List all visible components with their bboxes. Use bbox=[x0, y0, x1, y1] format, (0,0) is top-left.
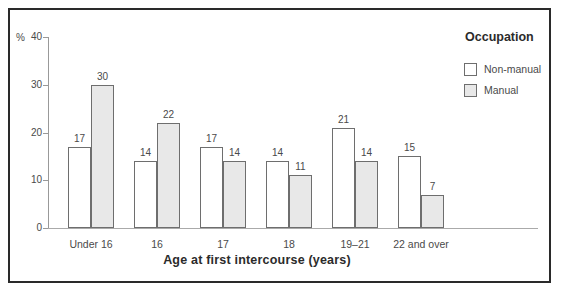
y-tick-label: 20 bbox=[14, 128, 42, 138]
legend-title: Occupation bbox=[465, 30, 534, 44]
bar-value-label: 30 bbox=[86, 71, 120, 82]
bar-non-manual bbox=[398, 156, 421, 228]
y-tick-mark bbox=[43, 228, 48, 229]
bar-value-label: 17 bbox=[195, 133, 229, 144]
bar-value-label: 22 bbox=[152, 109, 186, 120]
bar-value-label: 14 bbox=[218, 147, 252, 158]
bar-non-manual bbox=[134, 161, 157, 228]
y-tick-label: 30 bbox=[14, 80, 42, 90]
bar-manual bbox=[157, 123, 180, 228]
bar-value-label: 21 bbox=[327, 114, 361, 125]
bar-manual bbox=[289, 175, 312, 228]
bar-non-manual bbox=[332, 128, 355, 228]
y-axis-line bbox=[48, 37, 49, 229]
bar-non-manual bbox=[200, 147, 223, 228]
chart-figure: % 010203040 17301422171414112114157 Unde… bbox=[0, 0, 564, 297]
x-axis-line bbox=[48, 228, 538, 229]
legend-label: Manual bbox=[484, 84, 518, 97]
y-tick-label: 0 bbox=[14, 223, 42, 233]
bar-value-label: 11 bbox=[284, 161, 318, 172]
y-tick-mark bbox=[43, 37, 48, 38]
bar-non-manual bbox=[68, 147, 91, 228]
bar-manual bbox=[355, 161, 378, 228]
bar-value-label: 15 bbox=[393, 142, 427, 153]
y-tick-label: 10 bbox=[14, 175, 42, 185]
bar-manual bbox=[421, 195, 444, 228]
x-axis-title: Age at first intercourse (years) bbox=[107, 253, 407, 267]
y-tick-mark bbox=[43, 133, 48, 134]
bar-value-label: 14 bbox=[261, 147, 295, 158]
legend-label: Non-manual bbox=[484, 63, 541, 76]
legend-swatch-non-manual bbox=[464, 63, 477, 76]
bar-manual bbox=[223, 161, 246, 228]
bar-value-label: 7 bbox=[416, 181, 450, 192]
y-tick-mark bbox=[43, 85, 48, 86]
bar-manual bbox=[91, 85, 114, 228]
y-tick-mark bbox=[43, 180, 48, 181]
y-tick-label: 40 bbox=[14, 32, 42, 42]
legend-swatch-manual bbox=[464, 84, 477, 97]
x-category-label: 22 and over bbox=[379, 238, 463, 250]
bar-value-label: 14 bbox=[350, 147, 384, 158]
